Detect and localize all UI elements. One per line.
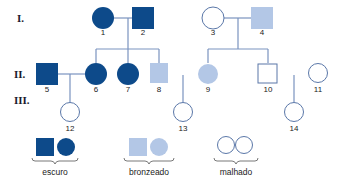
individual-14-female xyxy=(285,103,304,122)
individual-5-male xyxy=(36,63,58,85)
legend-brace xyxy=(124,158,174,164)
label-6: 6 xyxy=(94,85,99,94)
legend-malhado: malhado xyxy=(214,137,258,178)
individual-13-female xyxy=(174,103,193,122)
label-14: 14 xyxy=(290,124,299,133)
individual-10-male xyxy=(258,64,277,83)
individual-8-male xyxy=(150,63,168,83)
individual-2-male xyxy=(132,7,154,29)
individual-1-female xyxy=(92,7,114,29)
pedigree-diagram: I. II. III. 1 2 3 4 5 6 7 8 9 xyxy=(0,0,341,186)
legend-escuro: escuro xyxy=(32,138,78,177)
label-3: 3 xyxy=(211,28,216,37)
legend-brace xyxy=(32,158,78,164)
legend-bronzeado-male-icon xyxy=(129,138,147,156)
label-1: 1 xyxy=(101,28,106,37)
individual-3-female xyxy=(202,7,224,29)
individual-11-female xyxy=(309,64,328,83)
label-11: 11 xyxy=(314,85,323,94)
legend-malhado-female-icon xyxy=(218,137,235,154)
individual-6-female xyxy=(85,63,107,85)
legend-escuro-male-icon xyxy=(36,138,54,156)
label-10: 10 xyxy=(264,85,273,94)
label-2: 2 xyxy=(141,28,146,37)
individual-9-female xyxy=(198,64,218,84)
legend-malhado-female-icon xyxy=(236,137,253,154)
generation-label-iii: III. xyxy=(14,94,30,106)
legend-escuro-female-icon xyxy=(57,138,75,156)
individual-7-female xyxy=(117,63,139,85)
label-12: 12 xyxy=(66,124,75,133)
generation-label-i: I. xyxy=(17,12,24,24)
legend-bronzeado-female-icon xyxy=(150,138,168,156)
label-7: 7 xyxy=(126,85,131,94)
label-8: 8 xyxy=(157,85,162,94)
legend-bronzeado-label: bronzeado xyxy=(129,167,169,177)
individual-4-male xyxy=(251,7,273,29)
legend-bronzeado: bronzeado xyxy=(124,138,174,177)
label-4: 4 xyxy=(260,28,265,37)
label-9: 9 xyxy=(206,85,211,94)
individual-12-female xyxy=(61,103,80,122)
generation-label-ii: II. xyxy=(14,68,26,80)
label-5: 5 xyxy=(45,85,50,94)
legend-malhado-label: malhado xyxy=(220,167,253,177)
legend-escuro-label: escuro xyxy=(42,167,68,177)
legend-brace xyxy=(214,158,258,164)
label-13: 13 xyxy=(179,124,188,133)
